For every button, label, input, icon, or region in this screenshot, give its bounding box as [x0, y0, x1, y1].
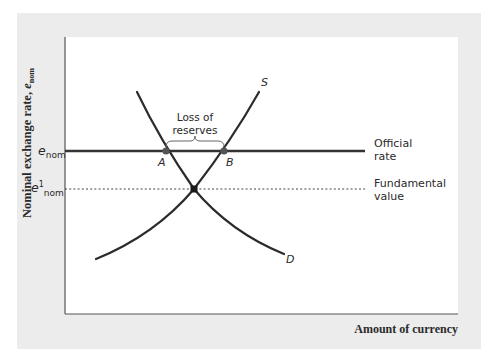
official-rate-label-line2: rate — [374, 150, 397, 163]
loss-of-reserves-label-line2: reserves — [173, 124, 218, 136]
loss-of-reserves-label-line1: Loss of — [177, 111, 214, 123]
point-b-marker — [220, 147, 227, 154]
point-b-label: B — [226, 156, 234, 169]
fundamental-value-label-line1: Fundamental — [374, 177, 446, 190]
y-axis-label: Nominal exchange rate, enom — [20, 68, 36, 218]
supply-curve-label: S — [261, 76, 268, 89]
x-axis-label: Amount of currency — [354, 322, 458, 336]
equilibrium-marker — [191, 186, 198, 193]
point-a-label: A — [157, 156, 166, 169]
exchange-rate-diagram: Nominal exchange rate, enom Amount of cu… — [0, 0, 495, 362]
demand-curve-label: D — [286, 253, 294, 266]
point-a-marker — [162, 147, 169, 154]
fundamental-value-label-line2: value — [374, 190, 404, 203]
official-rate-label-line1: Official — [374, 137, 412, 150]
